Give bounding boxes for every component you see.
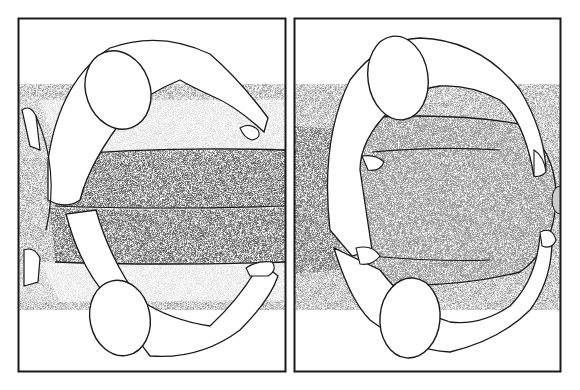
left-panel [19,40,285,361]
right-panel [295,32,568,360]
illustration [0,0,580,390]
